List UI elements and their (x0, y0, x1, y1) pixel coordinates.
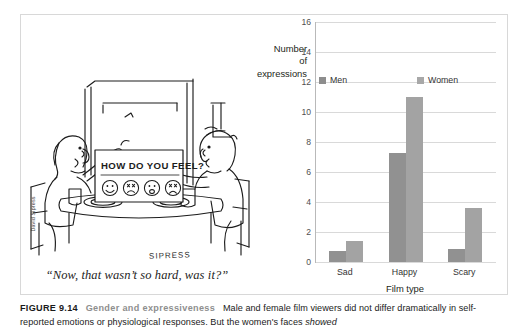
y-tick-label: 4 (306, 197, 311, 207)
y-tick-label: 6 (306, 167, 311, 177)
chart-legend: Men Women (319, 75, 495, 87)
y-tick-label: 10 (301, 107, 311, 117)
figure-title: Gender and expressiveness (86, 303, 216, 313)
legend-swatch-men-icon (319, 77, 326, 84)
cartoon-caption: “Now, that wasn’t so hard, was it?” (21, 268, 253, 283)
x-axis-title: Film type (315, 283, 495, 294)
legend-swatch-women-icon (417, 77, 424, 84)
y-tick-label: 14 (301, 47, 311, 57)
figure-caption: FIGURE 9.14 Gender and expressiveness Ma… (20, 302, 506, 329)
y-tick-label: 0 (306, 257, 311, 267)
cartoon-pane: David Sipress (21, 15, 253, 294)
y-axis-title: Number of expressions (255, 43, 307, 80)
cartoon-illustration: HOW DO YOU FEEL? (25, 17, 253, 267)
bar-happy-women (406, 97, 423, 262)
y-tick-label: 8 (306, 137, 311, 147)
bar-sad-men (329, 251, 346, 262)
bar-sad-women (346, 241, 363, 262)
cartoon-sign-text: HOW DO YOU FEEL? (101, 160, 204, 171)
figure-number: FIGURE 9.14 (20, 303, 78, 313)
cartoonist-signature: SIPRESS (149, 250, 191, 260)
x-tick-label-sad: Sad (337, 267, 353, 277)
x-tick-label-scary: Scary (453, 267, 476, 277)
x-tick-label-happy: Happy (392, 267, 417, 277)
gridline (316, 22, 496, 23)
bar-scary-women (465, 208, 482, 262)
y-tick-label: 12 (301, 77, 311, 87)
bar-happy-men (389, 153, 406, 263)
bar-chart: Number of expressions 0246810121416 Men … (255, 15, 507, 294)
legend-label-men: Men (330, 75, 347, 85)
legend-item-women: Women (417, 75, 458, 85)
gridline (316, 262, 496, 263)
y-tick-label: 16 (301, 17, 311, 27)
legend-label-women: Women (428, 75, 458, 85)
plot-area: 0246810121416 (315, 22, 495, 263)
bar-scary-men (448, 249, 465, 263)
y-tick-label: 2 (306, 227, 311, 237)
figure-body-emphasis: showed (305, 317, 337, 327)
legend-item-men: Men (319, 75, 347, 85)
y-axis-title-line-3: expressions (255, 68, 307, 80)
gridline (316, 52, 496, 53)
figure-container: David Sipress (0, 0, 526, 333)
y-axis-title-line-1: Number (255, 43, 307, 55)
y-axis-title-line-2: of (255, 55, 307, 67)
